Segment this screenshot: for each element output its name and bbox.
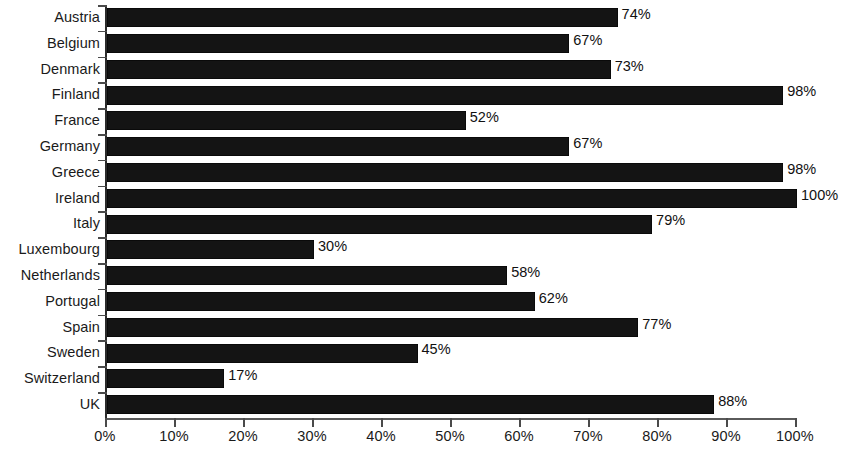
bar-value-label: 67% — [569, 134, 602, 153]
bar-germany — [107, 137, 569, 156]
bar-container — [107, 318, 638, 337]
bar-container — [107, 8, 618, 27]
bar-row: Sweden45% — [0, 340, 865, 366]
bar-container — [107, 60, 611, 79]
x-axis-tick-label: 80% — [642, 428, 672, 444]
bar-value-label: 100% — [797, 186, 838, 205]
bar-value-label: 67% — [569, 31, 602, 50]
category-label-luxembourg: Luxembourg — [18, 237, 100, 263]
x-axis-tick-label: 50% — [435, 428, 465, 444]
bar-ireland — [107, 189, 797, 208]
x-axis-tick-labels: 0%10%20%30%40%50%60%70%80%90%100% — [0, 428, 865, 450]
bar-row: Greece98% — [0, 160, 865, 186]
bar-italy — [107, 215, 652, 234]
bar-row: Finland98% — [0, 82, 865, 108]
x-axis-tick-label: 10% — [159, 428, 189, 444]
bar-row: Italy79% — [0, 211, 865, 237]
plot-area: Austria74%Belgium67%Denmark73%Finland98%… — [0, 0, 865, 453]
x-axis-tick-label: 70% — [573, 428, 603, 444]
bar-row: Belgium67% — [0, 31, 865, 57]
bar-row: Germany67% — [0, 134, 865, 160]
bar-value-label: 77% — [638, 315, 671, 334]
bar-rows: Austria74%Belgium67%Denmark73%Finland98%… — [0, 5, 865, 418]
category-label-greece: Greece — [52, 160, 100, 186]
category-label-netherlands: Netherlands — [21, 263, 100, 289]
category-label-finland: Finland — [52, 82, 100, 108]
bar-value-label: 52% — [466, 108, 499, 127]
y-axis-tick — [98, 134, 107, 136]
bar-row: Netherlands58% — [0, 263, 865, 289]
bar-greece — [107, 163, 783, 182]
bar-container — [107, 292, 535, 311]
y-axis-tick — [98, 340, 107, 342]
category-label-uk: UK — [80, 392, 100, 418]
x-axis-tick-label: 100% — [776, 428, 814, 444]
y-axis-tick — [98, 289, 107, 291]
bar-value-label: 98% — [783, 82, 816, 101]
bar-container — [107, 266, 507, 285]
x-axis-tick — [519, 418, 521, 427]
bar-row: Spain77% — [0, 315, 865, 341]
x-axis-tick-label: 20% — [228, 428, 258, 444]
category-label-switzerland: Switzerland — [24, 366, 100, 392]
category-label-spain: Spain — [62, 315, 100, 341]
category-label-ireland: Ireland — [55, 186, 100, 212]
x-axis-tick-label: 90% — [711, 428, 741, 444]
bar-container — [107, 369, 224, 388]
bar-row: Denmark73% — [0, 57, 865, 83]
bar-denmark — [107, 60, 611, 79]
bar-value-label: 58% — [507, 263, 540, 282]
x-axis-tick-label: 40% — [366, 428, 396, 444]
bar-row: Luxembourg30% — [0, 237, 865, 263]
bar-container — [107, 137, 569, 156]
bar-value-label: 45% — [418, 340, 451, 359]
bar-portugal — [107, 292, 535, 311]
category-label-sweden: Sweden — [47, 340, 100, 366]
y-axis-tick — [98, 186, 107, 188]
category-label-portugal: Portugal — [45, 289, 100, 315]
y-axis-tick — [98, 263, 107, 265]
bar-container — [107, 34, 569, 53]
y-axis-tick — [98, 366, 107, 368]
x-axis-tick — [726, 418, 728, 427]
x-axis-tick — [588, 418, 590, 427]
bar-france — [107, 111, 466, 130]
bar-value-label: 98% — [783, 160, 816, 179]
bar-container — [107, 344, 418, 363]
x-axis-tick — [795, 418, 797, 427]
y-axis-tick — [98, 211, 107, 213]
bar-container — [107, 240, 314, 259]
category-label-italy: Italy — [73, 211, 100, 237]
y-axis-tick — [98, 160, 107, 162]
bar-container — [107, 111, 466, 130]
x-axis-tick — [105, 418, 107, 427]
x-axis-tick-label: 0% — [94, 428, 115, 444]
bar-container — [107, 86, 783, 105]
bar-sweden — [107, 344, 418, 363]
bar-row: France52% — [0, 108, 865, 134]
bar-netherlands — [107, 266, 507, 285]
x-axis-tick — [312, 418, 314, 427]
y-axis-tick — [98, 237, 107, 239]
bar-container — [107, 163, 783, 182]
bar-switzerland — [107, 369, 224, 388]
category-label-denmark: Denmark — [40, 57, 100, 83]
y-axis-tick — [98, 57, 107, 59]
bar-row: Switzerland17% — [0, 366, 865, 392]
y-axis-tick — [98, 315, 107, 317]
category-label-austria: Austria — [54, 5, 100, 31]
category-label-france: France — [54, 108, 100, 134]
bar-value-label: 73% — [611, 57, 644, 76]
bar-container — [107, 395, 714, 414]
bar-container — [107, 215, 652, 234]
bar-row: Austria74% — [0, 5, 865, 31]
x-axis-tick — [657, 418, 659, 427]
x-axis-tick — [243, 418, 245, 427]
bar-row: UK88% — [0, 392, 865, 418]
bar-belgium — [107, 34, 569, 53]
bar-row: Ireland100% — [0, 186, 865, 212]
bar-value-label: 79% — [652, 211, 685, 230]
bar-value-label: 30% — [314, 237, 347, 256]
y-axis-tick — [98, 108, 107, 110]
bar-finland — [107, 86, 783, 105]
